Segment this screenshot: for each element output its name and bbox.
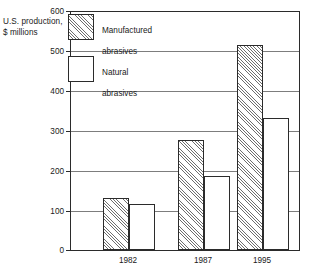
bar-natural-1987 [204,176,230,250]
legend-swatch-manufactured [68,14,94,40]
y-tick-label-500: 500 [38,47,64,56]
y-tick-label-200: 200 [38,167,64,176]
legend-entry-natural: Natural abrasives [68,56,137,110]
y-tick-label-0: 0 [38,246,64,255]
y-tick-label-300: 300 [38,127,64,136]
y-tick-label-600: 600 [38,7,64,16]
bar-manufactured-1982 [103,198,129,250]
y-tick-label-400: 400 [38,87,64,96]
legend-label-natural-line-1: Natural [102,68,137,79]
x-tick-label-1995: 1995 [242,256,282,265]
bar-natural-1982 [129,204,155,250]
x-tick-label-1982: 1982 [108,256,148,265]
legend-swatch-natural [68,56,94,82]
legend-label-natural: Natural abrasives [102,56,137,110]
y-axis-title-line-1: U.S. production, [3,17,65,28]
y-axis-title: U.S. production, $ millions [3,17,65,38]
bar-chart-figure: U.S. production, $ millions 600 500 400 … [0,0,316,279]
y-axis-title-line-2: $ millions [3,28,65,39]
bar-manufactured-1987 [178,140,204,250]
x-tick-label-1987: 1987 [183,256,223,265]
y-tick-label-100: 100 [38,207,64,216]
bar-manufactured-1995 [237,45,263,250]
legend-label-natural-line-2: abrasives [102,89,137,100]
bar-natural-1995 [263,118,289,250]
legend-label-manufactured-line-1: Manufactured [102,26,152,37]
